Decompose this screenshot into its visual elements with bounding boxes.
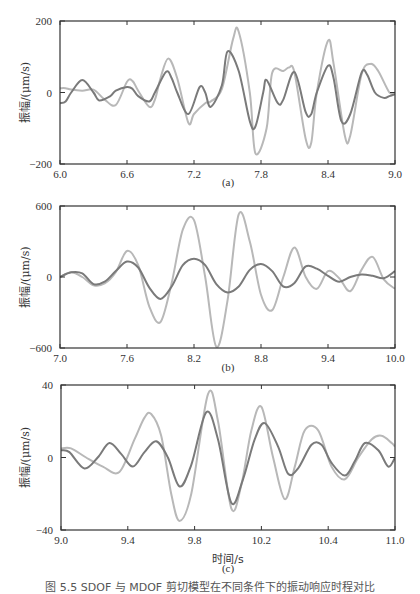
figure-caption: 图 5.5 SDOF 与 MDOF 剪切模型在不同条件下的振动响应时程对比 [0, 578, 420, 594]
y-axis-label: 振幅/(μm/s) [18, 246, 32, 307]
y-tick-label: 0 [47, 271, 53, 283]
x-tick-label: 7.6 [120, 352, 134, 364]
x-tick-label: 8.2 [187, 352, 201, 364]
x-tick-label: 10.2 [252, 534, 271, 546]
series-dark-line [61, 412, 395, 505]
x-tick-label: 10.4 [319, 534, 339, 546]
x-tick-label: 9.4 [121, 534, 135, 546]
x-tick-label: 9.4 [321, 352, 335, 364]
y-tick-label: 0 [48, 452, 54, 464]
x-tick-label: 9.0 [54, 534, 68, 546]
series-light-line [61, 390, 395, 520]
x-tick-label: 8.4 [321, 168, 335, 180]
y-axis-label: 振幅/(μm/s) [18, 62, 32, 123]
panel-label: (c) [222, 562, 235, 575]
x-tick-label: 8.8 [254, 352, 268, 364]
panel-c: 9.09.49.810.210.411.0−40040振幅/(μm/s)时间/s… [18, 379, 405, 575]
x-tick-label: 7.8 [254, 168, 268, 180]
x-tick-label: 11.0 [386, 534, 405, 546]
plot-frame [61, 385, 395, 530]
plot-frame [60, 21, 395, 164]
x-tick-label: 7.2 [187, 168, 201, 180]
y-tick-label: −600 [29, 342, 52, 354]
x-tick-label: 6.0 [53, 168, 67, 180]
panel-label: (a) [222, 176, 235, 189]
y-axis-label: 振幅/(μm/s) [18, 427, 32, 488]
x-tick-label: 9.0 [388, 168, 402, 180]
panel-a: 6.06.67.27.88.49.0−2000200振幅/(μm/s)(a) [18, 15, 402, 189]
panel-label: (b) [222, 361, 235, 374]
panel-b: 7.07.68.28.89.410.0−6000600振幅/(μm/s)(b) [18, 200, 405, 374]
x-tick-label: 6.6 [120, 168, 134, 180]
y-tick-label: 0 [47, 87, 53, 99]
y-tick-label: 200 [36, 15, 53, 27]
y-tick-label: 40 [42, 379, 54, 391]
y-tick-label: −200 [29, 158, 52, 170]
y-tick-label: 600 [36, 200, 53, 212]
x-tick-label: 7.0 [53, 352, 67, 364]
x-tick-label: 10.0 [385, 352, 405, 364]
x-tick-label: 9.8 [188, 534, 202, 546]
series-light-line [60, 27, 395, 154]
y-tick-label: −40 [36, 524, 54, 536]
